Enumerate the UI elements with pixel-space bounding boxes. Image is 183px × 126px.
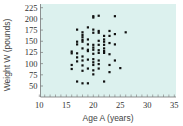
scatter-chart: 5075100125150175200225101520253035 Age A… [0,0,183,126]
data-point [76,56,78,58]
x-tick-label: 10 [35,100,44,110]
data-point [87,43,89,45]
data-point [108,53,110,55]
data-point [76,43,78,45]
data-point [92,16,94,18]
data-point [108,71,110,73]
y-tick-label: 200 [25,14,38,24]
data-point [125,31,127,33]
data-point [103,80,105,82]
data-point [92,58,94,60]
data-point [81,55,83,57]
data-point [76,52,78,54]
data-point [92,64,94,66]
x-tick-label: 30 [143,100,152,110]
data-point [81,41,83,43]
data-point [103,41,105,43]
plot-area [40,4,176,97]
y-tick-label: 100 [25,59,38,69]
data-point [92,32,94,34]
data-point [87,50,89,52]
data-point [76,60,78,62]
data-point [81,34,83,36]
data-point [92,29,94,31]
data-point [98,52,100,54]
data-point [108,30,110,32]
data-point [114,43,116,45]
data-point [87,59,89,61]
data-point [114,59,116,61]
data-point [98,44,100,46]
data-point [103,44,105,46]
y-tick-label: 125 [25,47,38,57]
data-point [87,26,89,28]
x-tick-label: 25 [116,100,125,110]
data-point [92,53,94,55]
data-point [92,69,94,71]
data-point [92,73,94,75]
data-point [98,67,100,69]
data-point [76,41,78,43]
data-point [98,15,100,17]
data-point [81,31,83,33]
x-tick-label: 35 [170,100,179,110]
data-point [81,70,83,72]
data-point [98,32,100,34]
y-axis-label: Weight W (pounds) [2,19,12,92]
x-tick-label: 15 [62,100,71,110]
data-point [108,64,110,66]
data-point [108,35,110,37]
data-point [103,47,105,49]
data-point [92,44,94,46]
data-point [71,64,73,66]
y-tick-label: 150 [25,36,38,46]
data-point [92,61,94,63]
y-tick-label: 175 [25,25,38,35]
x-tick-label: 20 [89,100,98,110]
data-point [98,59,100,61]
data-point [103,38,105,40]
data-point [103,52,105,54]
data-point [114,33,116,35]
data-point [92,46,94,48]
data-point [98,63,100,65]
data-point [81,36,83,38]
data-point [71,68,73,70]
data-point [92,49,94,51]
y-tick-label: 75 [29,70,38,80]
data-point [87,38,89,40]
data-point [76,80,78,82]
data-point [81,47,83,49]
data-point [81,64,83,66]
data-point [87,82,89,84]
data-point [87,67,89,69]
data-point [103,35,105,37]
data-point [98,40,100,42]
x-axis-label: Age A (years) [82,113,133,123]
data-point [76,29,78,31]
data-point [81,82,83,84]
data-point [71,52,73,54]
data-point [98,49,100,51]
y-tick-label: 225 [25,3,38,13]
data-point [81,59,83,61]
data-point [119,67,121,69]
data-point [108,42,110,44]
data-point [114,15,116,17]
y-tick-label: 50 [29,81,38,91]
